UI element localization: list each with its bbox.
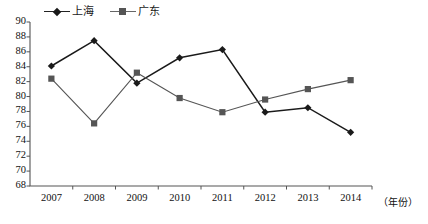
data-point-marker: [134, 70, 140, 76]
x-axis-unit-label: （年份）: [378, 194, 418, 209]
x-axis-tick-label: 2008: [71, 192, 117, 203]
plot-canvas: [0, 0, 428, 224]
line-chart: 上海 广东 6870727476788082848688902007200820…: [0, 0, 428, 224]
axis-lines: [30, 22, 372, 186]
y-axis-tick-label: 88: [4, 30, 26, 41]
data-point-marker: [48, 62, 55, 69]
x-axis-tick-label: 2012: [242, 192, 288, 203]
data-point-marker: [347, 129, 354, 136]
x-axis-tick-label: 2007: [28, 192, 74, 203]
y-axis-tick-label: 80: [4, 90, 26, 101]
data-point-marker: [219, 109, 225, 115]
y-axis-tick-label: 86: [4, 45, 26, 56]
x-axis-tick-label: 2009: [114, 192, 160, 203]
y-axis-tick-label: 76: [4, 119, 26, 130]
y-axis-tick-label: 78: [4, 104, 26, 115]
series-line-guangdong: [51, 73, 350, 124]
x-axis-tick-label: 2011: [199, 192, 245, 203]
y-axis-tick-label: 74: [4, 134, 26, 145]
y-axis-tick-label: 68: [4, 179, 26, 190]
x-axis-tick-label: 2010: [157, 192, 203, 203]
data-point-marker: [91, 120, 97, 126]
data-point-marker: [305, 86, 311, 92]
data-point-marker: [348, 77, 354, 83]
plot-area: [0, 0, 428, 224]
y-axis-tick-label: 84: [4, 60, 26, 71]
y-axis-tick-label: 70: [4, 164, 26, 175]
data-point-marker: [262, 96, 268, 102]
data-point-marker: [304, 104, 311, 111]
data-point-marker: [177, 95, 183, 101]
y-axis-tick-label: 82: [4, 75, 26, 86]
data-point-marker: [48, 76, 54, 82]
data-point-marker: [176, 54, 183, 61]
x-axis-tick-label: 2014: [328, 192, 374, 203]
y-axis-tick-label: 72: [4, 149, 26, 160]
x-axis-tick-label: 2013: [285, 192, 331, 203]
y-axis-tick-label: 90: [4, 15, 26, 26]
